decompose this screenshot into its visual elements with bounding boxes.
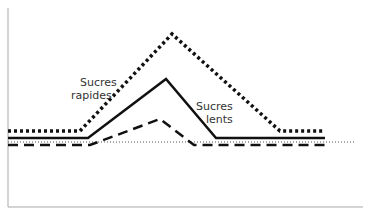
glycemic-chart <box>0 0 366 216</box>
label-text: Sucres <box>66 76 117 89</box>
series-sucres-lents <box>8 79 325 138</box>
series-sucres-rapides <box>8 34 325 131</box>
label-sucres-lents: Sucres lents <box>196 100 233 126</box>
label-text: rapides <box>66 89 117 102</box>
label-text: Sucres <box>196 100 233 113</box>
series-dashed <box>8 119 325 145</box>
label-sucres-rapides: Sucres rapides <box>66 76 117 102</box>
label-text: lents <box>196 113 233 126</box>
